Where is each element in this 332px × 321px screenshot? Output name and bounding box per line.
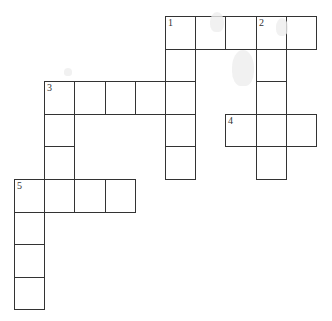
crossword-cell[interactable]	[44, 179, 75, 213]
background-smudge	[232, 50, 254, 86]
background-smudge	[276, 18, 288, 36]
crossword-cell[interactable]	[74, 179, 106, 213]
crossword-cell[interactable]	[14, 277, 45, 310]
crossword-cell[interactable]	[256, 49, 287, 82]
clue-number: 5	[17, 181, 22, 191]
background-smudge	[64, 68, 72, 76]
crossword-cell[interactable]	[14, 244, 45, 278]
crossword-cell[interactable]	[165, 146, 196, 180]
crossword-cell[interactable]: 4	[225, 114, 257, 147]
crossword-cell[interactable]	[286, 16, 317, 50]
crossword-cell[interactable]	[74, 81, 106, 115]
clue-number: 3	[47, 83, 52, 93]
crossword-cell[interactable]: 5	[14, 179, 45, 213]
crossword-cell[interactable]	[286, 114, 317, 147]
background-smudge	[210, 12, 224, 32]
crossword-cell[interactable]	[165, 81, 196, 115]
crossword-cell[interactable]	[165, 49, 196, 82]
crossword-cell[interactable]	[105, 179, 136, 213]
crossword-grid: 12345	[0, 0, 332, 321]
clue-number: 2	[259, 18, 264, 28]
clue-number: 4	[228, 116, 233, 126]
crossword-cell[interactable]	[105, 81, 136, 115]
crossword-cell[interactable]: 3	[44, 81, 75, 115]
crossword-cell[interactable]	[44, 146, 75, 180]
crossword-cell[interactable]	[44, 114, 75, 147]
crossword-cell[interactable]	[135, 81, 166, 115]
crossword-cell[interactable]	[165, 114, 196, 147]
crossword-cell[interactable]	[225, 16, 257, 50]
crossword-cell[interactable]	[256, 81, 287, 115]
crossword-cell[interactable]	[256, 146, 287, 180]
crossword-cell[interactable]	[14, 212, 45, 245]
crossword-cell[interactable]	[256, 114, 287, 147]
clue-number: 1	[168, 18, 173, 28]
crossword-cell[interactable]: 1	[165, 16, 196, 50]
